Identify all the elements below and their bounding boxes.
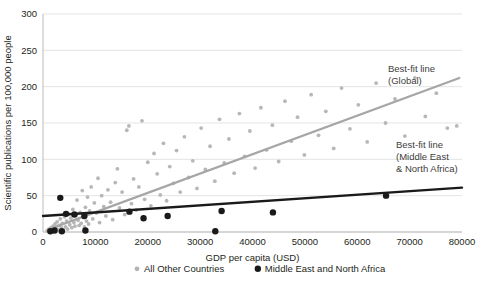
data-point-other (96, 176, 100, 180)
data-point-other (213, 179, 217, 183)
x-tick-label: 20000 (135, 236, 161, 247)
data-point-other (111, 218, 115, 222)
y-axis-tick-labels: 050100150200250300 (21, 8, 37, 237)
mena-fit-annotation: Best-fit line(Middle East& North Africa) (396, 139, 458, 174)
data-point-other (123, 213, 127, 217)
data-point-other (348, 127, 352, 131)
data-point-other (183, 135, 187, 139)
data-point-other (120, 190, 124, 194)
data-point-other (175, 149, 179, 153)
y-tick-label: 0 (32, 226, 37, 237)
legend-label-mena: Middle East and North Africa (265, 263, 386, 274)
y-tick-label: 150 (21, 117, 37, 128)
data-point-other (340, 86, 344, 90)
data-point-other (155, 172, 159, 176)
data-point-other (195, 187, 199, 191)
data-point-other (115, 167, 119, 171)
data-point-mena (140, 215, 146, 221)
data-point-other (423, 115, 427, 119)
annotation-line: Best-fit line (396, 139, 443, 150)
data-point-mena (59, 228, 65, 234)
data-point-other (232, 171, 236, 175)
data-point-other (296, 115, 300, 119)
data-point-other (309, 93, 313, 97)
data-point-other (178, 190, 182, 194)
data-point-other (302, 153, 306, 157)
data-point-other (66, 227, 70, 231)
data-point-mena (218, 208, 224, 214)
data-point-other (283, 99, 287, 103)
series-middle-east-north-africa (47, 192, 389, 234)
x-tick-label: 0 (40, 236, 45, 247)
data-point-mena (82, 227, 88, 233)
data-point-other (87, 222, 91, 226)
y-tick-label: 300 (21, 8, 37, 19)
annotation-line: (Middle East (396, 151, 449, 162)
data-point-other (384, 121, 388, 125)
data-point-other (146, 160, 150, 164)
data-point-other (140, 119, 144, 123)
data-point-other (152, 152, 156, 156)
data-point-other (208, 144, 212, 148)
data-point-other (137, 185, 141, 189)
data-point-other (84, 205, 88, 209)
data-point-other (168, 165, 172, 169)
data-point-other (98, 221, 102, 225)
x-tick-label: 80000 (449, 236, 475, 247)
data-point-mena (81, 213, 87, 219)
data-point-other (277, 160, 281, 164)
y-axis-title: Scientific publications per 100,000 peop… (2, 35, 13, 210)
chart-legend: All Other CountriesMiddle East and North… (135, 263, 386, 274)
data-point-mena (71, 211, 77, 217)
data-point-mena (126, 208, 132, 214)
data-point-other (227, 137, 231, 141)
data-point-other (80, 189, 84, 193)
scatter-chart: 0100002000030000400005000060000700008000… (0, 0, 483, 284)
x-tick-label: 40000 (239, 236, 265, 247)
data-point-other (317, 133, 321, 137)
data-point-other (238, 112, 242, 116)
legend-marker-other (135, 266, 140, 271)
data-point-other (271, 123, 275, 127)
data-point-other (434, 91, 438, 95)
data-point-other (455, 124, 459, 128)
legend-marker-mena (255, 266, 261, 272)
data-point-other (248, 129, 252, 133)
data-point-other (109, 200, 113, 204)
data-point-other (79, 221, 83, 225)
x-tick-label: 70000 (396, 236, 422, 247)
y-tick-label: 250 (21, 45, 37, 56)
data-point-other (218, 117, 222, 121)
data-point-mena (164, 213, 170, 219)
data-point-mena (270, 209, 276, 215)
data-point-other (365, 140, 369, 144)
x-axis-tick-labels: 0100002000030000400005000060000700008000… (40, 236, 475, 247)
data-point-mena (212, 228, 218, 234)
data-point-other (75, 198, 79, 202)
data-point-other (73, 224, 77, 228)
data-point-other (125, 128, 129, 132)
data-point-other (92, 201, 96, 205)
data-point-other (143, 197, 147, 201)
data-point-other (356, 103, 360, 107)
data-point-other (86, 195, 90, 199)
annotation-line: (Global) (388, 75, 422, 86)
x-tick-label: 10000 (82, 236, 108, 247)
trendline-mena (43, 188, 462, 216)
chart-canvas: 0100002000030000400005000060000700008000… (0, 0, 483, 284)
data-point-other (100, 194, 104, 198)
data-point-other (259, 106, 263, 110)
x-tick-label: 30000 (187, 236, 213, 247)
data-point-mena (63, 211, 69, 217)
data-point-other (132, 177, 136, 181)
data-point-other (71, 208, 75, 212)
y-tick-label: 50 (26, 190, 37, 201)
data-point-other (158, 193, 162, 197)
y-tick-label: 200 (21, 81, 37, 92)
data-point-other (332, 147, 336, 151)
data-point-other (445, 126, 449, 130)
data-point-mena (383, 192, 389, 198)
gridlines-group (43, 14, 462, 232)
x-axis-title: GDP per capita (USD) (206, 252, 300, 263)
data-point-other (55, 220, 59, 224)
